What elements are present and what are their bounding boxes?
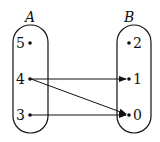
element-a-3: 3	[16, 108, 25, 122]
element-a-5: 5	[16, 36, 25, 50]
set-b-label: B	[124, 10, 134, 24]
element-a-4: 4	[16, 72, 25, 86]
arrow-4-to-0	[31, 79, 126, 114]
dot-b-2	[127, 41, 131, 45]
element-b-2: 2	[133, 36, 142, 50]
element-b-0: 0	[133, 108, 142, 122]
dot-b-0	[127, 113, 131, 117]
dot-b-1	[127, 77, 131, 81]
set-a-label: A	[25, 10, 35, 24]
element-b-1: 1	[133, 72, 142, 86]
dot-a-5	[28, 41, 32, 45]
